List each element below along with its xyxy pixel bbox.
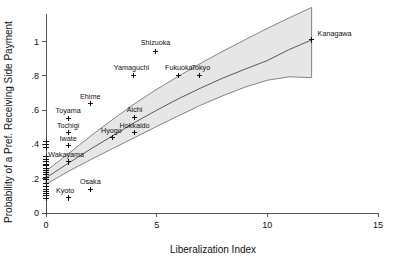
- y-tick-label: .6: [31, 105, 39, 115]
- data-point-label: Kanagawa: [318, 29, 352, 38]
- data-point-label: Hyogo: [101, 126, 122, 135]
- data-point-label: Ehime: [80, 92, 100, 101]
- y-tick-label: .8: [31, 71, 39, 81]
- y-tick-label: .4: [31, 139, 39, 149]
- x-axis-title: Liberalization Index: [170, 244, 256, 255]
- data-point-label: Kyoto: [56, 186, 74, 195]
- x-tick-label: 0: [43, 220, 48, 230]
- data-point-marker: [131, 73, 136, 78]
- data-point-label: Tochigi: [57, 121, 80, 130]
- data-point-marker: [66, 143, 71, 148]
- x-tick-label: 5: [154, 220, 159, 230]
- data-point-label: Shizuoka: [141, 38, 171, 47]
- data-point-marker: [66, 195, 71, 200]
- data-point-marker: [43, 144, 48, 149]
- data-point-label: Aichi: [127, 105, 143, 114]
- y-axis-title: Probability of a Pref. Receiving Side Pa…: [3, 21, 14, 223]
- data-point-label: Yamaguchi: [114, 63, 150, 72]
- scatter-plot-svg: 0510150.2.4.6.81 KanagawaShizuokaTokyoFu…: [0, 0, 401, 258]
- data-point-label: Tokyo: [191, 63, 210, 72]
- y-tick-label: .2: [31, 174, 39, 184]
- x-tick-label: 15: [373, 220, 383, 230]
- data-point-label: Osaka: [80, 177, 101, 186]
- data-point-marker: [43, 196, 48, 201]
- y-tick-label: 1: [34, 37, 39, 47]
- data-point-label: Wakayama: [48, 150, 84, 159]
- data-point-label: Fukuoka: [165, 63, 193, 72]
- data-point-label: Hokkaido: [120, 121, 150, 130]
- x-tick-label: 10: [262, 220, 272, 230]
- data-point-marker: [88, 101, 93, 106]
- chart-figure: 0510150.2.4.6.81 KanagawaShizuokaTokyoFu…: [0, 0, 401, 258]
- data-point-marker: [153, 49, 158, 54]
- y-tick-label: 0: [34, 208, 39, 218]
- data-point-marker: [88, 187, 93, 192]
- data-point-label: Iwate: [60, 134, 77, 143]
- data-point-label: Toyama: [56, 106, 81, 115]
